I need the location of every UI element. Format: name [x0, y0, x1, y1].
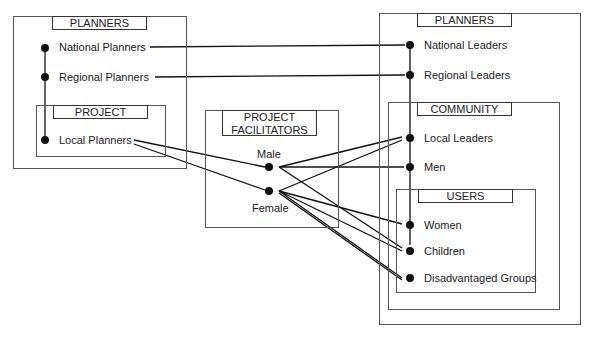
node-national-leaders: National Leaders — [424, 39, 507, 52]
node-regional-leaders: Regional Leaders — [424, 69, 510, 82]
node-dot-local-planners — [41, 136, 49, 144]
planners-title-right: PLANNERS — [417, 13, 512, 27]
node-national-planners: National Planners — [59, 41, 146, 54]
node-dot-male — [265, 163, 273, 171]
node-dot-disadvantaged-groups — [406, 274, 414, 282]
node-female: Female — [252, 202, 289, 215]
facilitators-title-line1: PROJECT — [223, 111, 316, 124]
node-women: Women — [424, 219, 462, 232]
node-dot-female — [265, 187, 273, 195]
node-dot-regional-leaders — [406, 71, 414, 79]
node-dot-national-leaders — [406, 41, 414, 49]
node-men: Men — [424, 161, 445, 174]
project-title: PROJECT — [53, 105, 148, 119]
node-local-leaders: Local Leaders — [424, 132, 493, 145]
node-dot-local-leaders — [406, 134, 414, 142]
community-title: COMMUNITY — [417, 102, 512, 116]
node-dot-women — [406, 221, 414, 229]
node-local-planners: Local Planners — [59, 134, 132, 147]
node-children: Children — [424, 245, 465, 258]
project-facilitators-title: PROJECT FACILITATORS — [222, 110, 317, 136]
node-male: Male — [257, 148, 281, 161]
node-dot-regional-planners — [41, 73, 49, 81]
facilitators-title-line2: FACILITATORS — [223, 124, 316, 137]
node-dot-men — [406, 163, 414, 171]
node-dot-national-planners — [41, 44, 49, 52]
users-title: USERS — [418, 189, 513, 203]
planners-title-left: PLANNERS — [52, 16, 147, 30]
node-dot-children — [406, 247, 414, 255]
node-disadvantaged-groups: Disadvantaged Groups — [424, 272, 537, 285]
node-regional-planners: Regional Planners — [59, 71, 149, 84]
